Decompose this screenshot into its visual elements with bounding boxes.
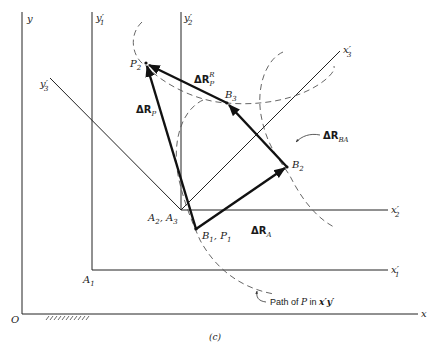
path-curve-upper bbox=[133, 22, 334, 104]
delta-R-A-label: ΔRA bbox=[251, 225, 272, 239]
y2-prime-label: y′2 bbox=[183, 12, 193, 27]
y-axis-label: y bbox=[26, 13, 33, 24]
vector-delta-R-P bbox=[147, 66, 196, 229]
kinematics-diagram: y x O y′1 y′2 y′3 x′3 x′2 x′1 P2 B3 B2 A… bbox=[0, 0, 433, 349]
point-B2 bbox=[285, 165, 288, 168]
B1-P1-label: B1, P1 bbox=[201, 230, 231, 244]
x-axis-label: x bbox=[421, 308, 427, 319]
frame-2 bbox=[181, 12, 388, 210]
x2-prime-label: x′2 bbox=[391, 204, 400, 219]
x3-prime-label: x′3 bbox=[343, 44, 352, 59]
path-of-P-note: Path of P in x′y′ bbox=[270, 297, 335, 307]
dashed-paths bbox=[133, 22, 336, 294]
A1-label: A1 bbox=[82, 274, 95, 288]
origin-label: O bbox=[11, 314, 19, 325]
y3-prime-axis bbox=[50, 78, 181, 210]
vector-delta-R-A bbox=[196, 168, 285, 229]
P2-label: P2 bbox=[129, 58, 142, 72]
B3-label: B3 bbox=[224, 89, 237, 103]
B2-label: B2 bbox=[291, 159, 304, 173]
point-B1 bbox=[194, 227, 197, 230]
y1-prime-label: y′1 bbox=[95, 12, 105, 27]
leader-path-note bbox=[257, 291, 266, 302]
point-P2 bbox=[144, 61, 147, 64]
displacement-vectors bbox=[147, 65, 287, 229]
delta-R-P-label: ΔRP bbox=[136, 104, 156, 118]
figure-caption: (c) bbox=[209, 332, 222, 342]
path-of-P-curve bbox=[176, 100, 274, 294]
A2-A3-label: A2, A3 bbox=[147, 212, 178, 226]
x1-prime-label: x′1 bbox=[391, 264, 400, 279]
point-B3 bbox=[225, 101, 228, 104]
delta-R-BA-label: ΔRBA bbox=[323, 130, 349, 144]
y3-prime-label: y′3 bbox=[39, 78, 49, 93]
ground-hatching bbox=[46, 316, 89, 320]
vector-delta-R-BA bbox=[229, 105, 287, 167]
fixed-frame bbox=[22, 12, 418, 320]
leader-delta-R-BA bbox=[296, 134, 320, 142]
vector-delta-R-P-R bbox=[149, 65, 227, 103]
delta-R-P-R-label: ΔRPR bbox=[194, 71, 215, 88]
